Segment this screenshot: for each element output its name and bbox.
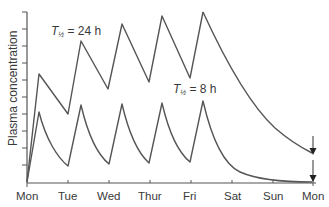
svg-text:T½ = 24 h: T½ = 24 h [51,24,101,38]
x-label-mon-end: Mon [302,190,324,202]
x-label-tue: Tue [58,190,77,202]
svg-text:T½ = 8 h: T½ = 8 h [173,82,217,96]
down-arrow-icon [310,160,317,182]
y-ticks [22,12,27,165]
y-axis-label: Plasma concentration [6,31,20,146]
x-label-thur: Thur [138,190,162,202]
x-label-sat: Sat [224,190,242,202]
series-t-half-24h-decay [203,12,312,153]
series-t-half-8h [27,101,312,182]
x-label-mon: Mon [16,190,38,202]
x-label-sun: Sun [263,190,283,202]
x-label-wed: Wed [97,190,120,202]
annotation-t-half-24h: T½ = 24 h [51,24,101,38]
annotation-t-half-8h: T½ = 8 h [173,82,217,96]
x-label-fri: Fri [183,190,196,202]
x-tick-labels: Mon Tue Wed Thur Fri Sat Sun Mon [16,190,324,202]
plasma-concentration-chart: Mon Tue Wed Thur Fri Sat Sun Mon Plasma … [0,0,329,207]
